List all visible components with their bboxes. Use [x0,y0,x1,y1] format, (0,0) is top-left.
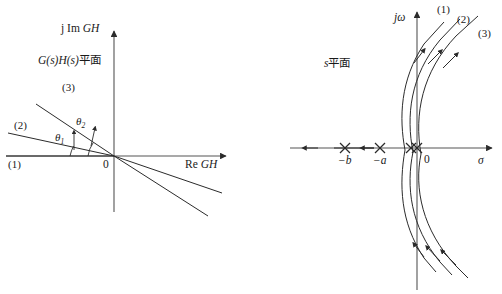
right-plane-label: s平面 [324,58,350,70]
right-branch-2-arrow-lower [427,247,440,261]
figure-container: j Im GH G(s)H(s)平面 (3) (2) (1) θ1 θ2 0 R… [0,0,502,294]
left-theta2-arc [88,143,93,156]
left-plane-label: G(s)H(s)平面 [38,55,101,67]
left-branch-3-line [36,104,114,156]
right-branch-label-2: (2) [457,14,470,25]
right-branch-3-curve [419,16,478,154]
left-real-axis-label: Re GH [185,159,217,171]
right-branch-label-1: (1) [437,4,450,15]
left-branch-label-1: (1) [8,159,21,170]
right-branch-1-arrow-lower [414,244,424,257]
right-origin-label: 0 [424,154,430,166]
right-branch-2-curve-lower [410,152,452,275]
right-branch-3-curve-lower [419,154,468,278]
left-branch-label-3: (3) [62,82,75,93]
right-pole-label-b: −b [338,155,352,167]
right-pole-label-a: −a [373,155,387,167]
right-panel-s-plane [290,12,492,290]
right-branch-1-curve [402,22,444,150]
left-imaginary-axis-label: j Im GH [61,23,99,35]
left-theta1-arc [70,146,74,156]
right-branch-label-3: (3) [478,28,491,39]
left-branch-label-2: (2) [14,120,27,131]
figure-drawing [0,0,502,294]
right-imaginary-axis-label: jω [394,12,405,24]
right-real-axis-label: σ [478,155,484,167]
left-theta1-label: θ1 [55,132,64,146]
right-branch-3-arrow [443,54,457,68]
left-origin-label: 0 [103,159,109,171]
left-theta2-label: θ2 [76,116,85,130]
right-branch-3-arrow-lower [442,251,456,265]
